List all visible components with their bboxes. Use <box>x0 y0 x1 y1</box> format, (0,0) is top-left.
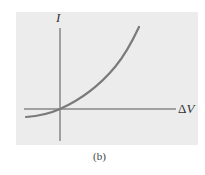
x-axis-label: ΔV <box>178 101 194 117</box>
figure-caption: (b) <box>93 150 106 162</box>
iv-curve <box>26 27 139 117</box>
y-axis-label: I <box>56 10 60 26</box>
voltage-symbol: V <box>186 101 194 116</box>
iv-plot <box>0 0 205 175</box>
